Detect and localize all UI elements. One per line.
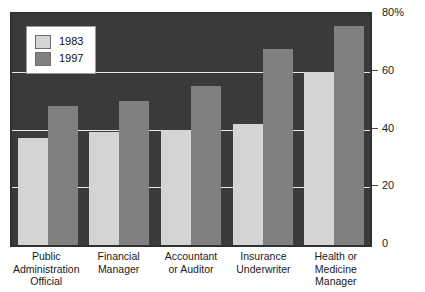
legend-label: 1983 (59, 36, 83, 47)
bar-1983[interactable] (233, 124, 263, 245)
x-axis-label: Accountantor Auditor (155, 250, 227, 288)
y-tick-label: 60 (382, 65, 394, 76)
bar-1997[interactable] (191, 86, 221, 245)
chart-title (0, 0, 425, 7)
y-tick-mark (372, 70, 378, 71)
bar-1983[interactable] (304, 72, 334, 245)
bar-1983[interactable] (89, 132, 119, 245)
bar-1997[interactable] (119, 101, 149, 245)
x-axis-label: Health orMedicineManager (300, 250, 372, 288)
legend-swatch (35, 35, 51, 49)
y-tick-mark (372, 128, 378, 129)
legend-item[interactable]: 1997 (35, 50, 83, 67)
bar-group (298, 14, 370, 245)
bar-group (227, 14, 299, 245)
legend-label: 1997 (59, 53, 83, 64)
y-axis: 80%6040200 (372, 12, 425, 247)
x-axis: PublicAdministrationOfficialFinancialMan… (10, 250, 372, 288)
bar-1983[interactable] (18, 138, 48, 245)
y-tick-mark (372, 185, 378, 186)
bar-1997[interactable] (334, 26, 364, 245)
bar-1997[interactable] (48, 106, 78, 245)
y-tick-label: 20 (382, 180, 394, 191)
x-axis-label: InsuranceUnderwriter (227, 250, 299, 288)
y-tick-label: 0 (382, 238, 388, 249)
legend-item[interactable]: 1983 (35, 33, 83, 50)
x-axis-label: FinancialManager (82, 250, 154, 288)
x-axis-label: PublicAdministrationOfficial (10, 250, 82, 288)
bar-1997[interactable] (263, 49, 293, 245)
chart-legend: 19831997 (26, 26, 96, 74)
bar-group (155, 14, 227, 245)
bar-chart: 80%6040200 PublicAdministrationOfficialF… (0, 0, 425, 292)
legend-swatch (35, 52, 51, 66)
bar-1983[interactable] (161, 130, 191, 246)
y-tick-label: 80% (382, 7, 404, 18)
y-tick-label: 40 (382, 123, 394, 134)
